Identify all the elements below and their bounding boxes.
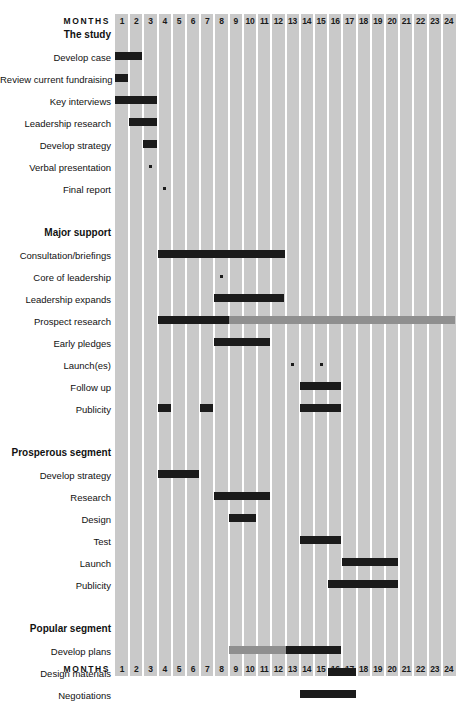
header-month-17: 17 xyxy=(342,14,356,28)
task-label-early-pledges: Early pledges xyxy=(0,338,111,349)
gantt-bar-develop-strategy-0 xyxy=(143,140,156,148)
gantt-bar-leadership-expands-0 xyxy=(214,294,284,302)
grid-line-19 xyxy=(384,14,386,676)
footer-month-13: 13 xyxy=(286,662,300,676)
task-label-design: Design xyxy=(0,514,111,525)
header-month-21: 21 xyxy=(399,14,413,28)
header-month-11: 11 xyxy=(257,14,271,28)
gantt-bar-research-0 xyxy=(214,492,270,500)
grid-line-1 xyxy=(128,14,130,676)
task-label-core-of-leadership: Core of leadership xyxy=(0,272,111,283)
gantt-chart: MONTHS 123456789101112131415161718192021… xyxy=(0,0,461,710)
task-label-consultation-briefings: Consultation/briefings xyxy=(0,250,111,261)
header-month-8: 8 xyxy=(214,14,228,28)
footer-month-4: 4 xyxy=(158,662,172,676)
footer-month-22: 22 xyxy=(413,662,427,676)
gantt-bar-leadership-research-0 xyxy=(129,118,156,126)
grid-line-4 xyxy=(171,14,173,676)
gantt-bar-publicity-0 xyxy=(158,404,171,412)
footer-month-5: 5 xyxy=(172,662,186,676)
months-label-top: MONTHS xyxy=(0,14,110,28)
footer-month-14: 14 xyxy=(300,662,314,676)
header-month-13: 13 xyxy=(286,14,300,28)
task-label-follow-up: Follow up xyxy=(0,382,111,393)
grid-line-13 xyxy=(299,14,301,676)
task-label-verbal-presentation: Verbal presentation xyxy=(0,162,111,173)
task-label-negotiations: Negotiations xyxy=(0,690,111,701)
task-label-review-current-fundraising: Review current fundraising xyxy=(0,74,111,85)
footer-month-1: 1 xyxy=(115,662,129,676)
gantt-milestone-launch-es-1 xyxy=(320,363,323,366)
footer-month-17: 17 xyxy=(342,662,356,676)
header-month-19: 19 xyxy=(371,14,385,28)
header-month-14: 14 xyxy=(300,14,314,28)
header-month-3: 3 xyxy=(143,14,157,28)
header-month-1: 1 xyxy=(115,14,129,28)
task-label-publicity: Publicity xyxy=(0,404,111,415)
header-month-5: 5 xyxy=(172,14,186,28)
section-heading-the-study: The study xyxy=(0,29,111,40)
task-label-key-interviews: Key interviews xyxy=(0,96,111,107)
grid-line-5 xyxy=(185,14,187,676)
month-header-row: 123456789101112131415161718192021222324 xyxy=(115,14,456,28)
section-heading-prosperous-segment: Prosperous segment xyxy=(0,447,111,458)
gantt-bar-publicity-2 xyxy=(300,404,342,412)
gantt-bar-key-interviews-0 xyxy=(115,96,157,104)
task-label-final-report: Final report xyxy=(0,184,111,195)
header-month-4: 4 xyxy=(158,14,172,28)
gantt-bar-prospect-research-1 xyxy=(229,316,455,324)
footer-month-20: 20 xyxy=(385,662,399,676)
footer-month-10: 10 xyxy=(243,662,257,676)
top-artifact-strip xyxy=(0,0,461,12)
footer-month-7: 7 xyxy=(200,662,214,676)
footer-month-12: 12 xyxy=(271,662,285,676)
task-label-develop-strategy: Develop strategy xyxy=(0,470,111,481)
header-month-22: 22 xyxy=(413,14,427,28)
grid-line-20 xyxy=(398,14,400,676)
gantt-bar-negotiations-0 xyxy=(300,690,356,698)
grid-line-21 xyxy=(412,14,414,676)
footer-month-8: 8 xyxy=(214,662,228,676)
gantt-milestone-verbal-presentation-0 xyxy=(149,165,152,168)
grid-line-2 xyxy=(142,14,144,676)
header-month-6: 6 xyxy=(186,14,200,28)
gantt-bar-publicity-1 xyxy=(200,404,213,412)
footer-month-24: 24 xyxy=(442,662,456,676)
gantt-bar-develop-plans-1 xyxy=(286,646,342,654)
grid-line-18 xyxy=(370,14,372,676)
footer-month-3: 3 xyxy=(143,662,157,676)
gantt-bar-early-pledges-0 xyxy=(214,338,270,346)
header-month-16: 16 xyxy=(328,14,342,28)
gantt-milestone-final-report-0 xyxy=(163,187,166,190)
task-label-test: Test xyxy=(0,536,111,547)
header-month-24: 24 xyxy=(442,14,456,28)
header-month-10: 10 xyxy=(243,14,257,28)
footer-month-2: 2 xyxy=(129,662,143,676)
gantt-bar-test-0 xyxy=(300,536,342,544)
task-label-prospect-research: Prospect research xyxy=(0,316,111,327)
footer-month-16: 16 xyxy=(328,662,342,676)
footer-month-19: 19 xyxy=(371,662,385,676)
grid-line-3 xyxy=(157,14,159,676)
month-footer-row: 123456789101112131415161718192021222324 xyxy=(115,662,456,676)
header-month-23: 23 xyxy=(428,14,442,28)
chart-grid xyxy=(115,14,456,676)
footer-month-6: 6 xyxy=(186,662,200,676)
gantt-bar-consultation-briefings-0 xyxy=(158,250,285,258)
grid-line-22 xyxy=(427,14,429,676)
task-label-develop-strategy: Develop strategy xyxy=(0,140,111,151)
task-label-publicity: Publicity xyxy=(0,580,111,591)
gantt-bar-develop-case-0 xyxy=(115,52,142,60)
task-label-launch: Launch xyxy=(0,558,111,569)
task-label-develop-case: Develop case xyxy=(0,52,111,63)
task-label-develop-plans: Develop plans xyxy=(0,646,111,657)
footer-month-11: 11 xyxy=(257,662,271,676)
footer-month-15: 15 xyxy=(314,662,328,676)
grid-line-6 xyxy=(199,14,201,676)
gantt-bar-develop-strategy-0 xyxy=(158,470,200,478)
grid-line-11 xyxy=(270,14,272,676)
footer-month-18: 18 xyxy=(357,662,371,676)
gantt-milestone-launch-es-0 xyxy=(291,363,294,366)
gantt-bar-publicity-0 xyxy=(328,580,398,588)
gantt-bar-design-0 xyxy=(229,514,256,522)
